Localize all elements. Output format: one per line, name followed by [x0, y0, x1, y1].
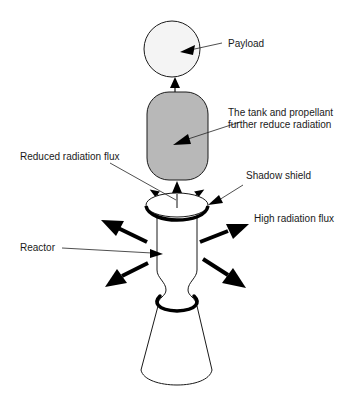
- label-tank-line1: The tank and propellant: [228, 107, 333, 118]
- high-flux-arrows: [101, 220, 249, 288]
- radiation-shielding-diagram: Payload The tank and propellant further …: [0, 0, 350, 402]
- shadow-shield: [146, 193, 208, 220]
- throat-ring: [157, 296, 197, 311]
- reactor: [157, 212, 197, 311]
- label-reactor: Reactor: [20, 242, 56, 253]
- label-high-flux: High radiation flux: [254, 213, 334, 224]
- reactor-pointer: [62, 248, 163, 258]
- tank-body: [147, 92, 208, 180]
- propellant-tank: [147, 92, 208, 180]
- label-tank-line2: further reduce radiation: [228, 119, 331, 130]
- nozzle: [141, 306, 212, 385]
- label-payload: Payload: [228, 38, 264, 49]
- label-shadow-shield: Shadow shield: [246, 170, 311, 181]
- nozzle-bell: [141, 306, 212, 385]
- shield-pointer: [208, 185, 243, 205]
- label-reduced-flux: Reduced radiation flux: [20, 151, 120, 162]
- reactor-body: [157, 212, 197, 304]
